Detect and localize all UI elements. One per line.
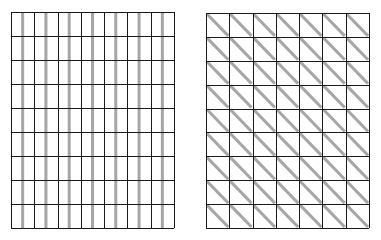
diagonal-stripe-grid — [0, 0, 381, 240]
diagonal-stripe-shading — [207, 14, 368, 227]
